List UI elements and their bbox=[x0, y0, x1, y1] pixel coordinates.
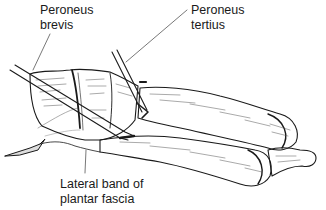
label-peroneus-brevis: Peroneus brevis bbox=[40, 3, 94, 33]
label-peroneus-tertius: Peroneus tertius bbox=[191, 3, 245, 33]
peroneus-tertius-tendon bbox=[112, 50, 148, 118]
metatarsal-upper bbox=[138, 87, 297, 150]
anatomy-figure: Peroneus brevis Peroneus tertius Lateral… bbox=[0, 0, 326, 210]
label-plantar-fascia-line1: Lateral band of bbox=[60, 177, 143, 192]
leader-line-plantar-fascia bbox=[85, 150, 86, 173]
label-peroneus-brevis-line1: Peroneus bbox=[40, 3, 94, 18]
label-peroneus-brevis-line2: brevis bbox=[40, 18, 94, 33]
leader-line-peroneus-brevis bbox=[33, 34, 50, 70]
leader-line-peroneus-tertius bbox=[126, 10, 187, 62]
cuboid-bone bbox=[30, 69, 138, 140]
label-peroneus-tertius-line2: tertius bbox=[191, 18, 245, 33]
phalanx bbox=[268, 148, 316, 176]
soft-tissue bbox=[5, 139, 45, 156]
label-peroneus-tertius-line1: Peroneus bbox=[191, 3, 245, 18]
label-plantar-fascia-line2: plantar fascia bbox=[60, 192, 143, 207]
peroneus-brevis-tendon bbox=[10, 65, 134, 140]
label-plantar-fascia: Lateral band of plantar fascia bbox=[60, 177, 143, 207]
